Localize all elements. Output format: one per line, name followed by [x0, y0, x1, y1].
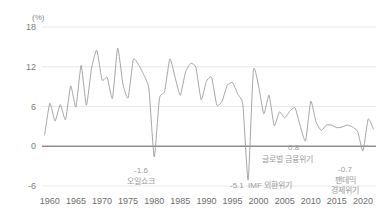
chart-canvas: (%) 181260-6 196019651970197519801985199… [0, 0, 383, 216]
y-tick-label--6: -6 [28, 181, 36, 191]
y-tick-label-18: 18 [26, 22, 36, 32]
x-tick-label-1965: 1965 [66, 196, 86, 206]
x-tick-label-1980: 1980 [144, 196, 164, 206]
annotation-global-financial-crisis-label: 글로벌 금융위기 [262, 154, 313, 164]
y-axis-unit-label: (%) [32, 13, 45, 22]
x-tick-label-2015: 2015 [327, 196, 347, 206]
x-tick-label-1990: 1990 [196, 196, 216, 206]
x-tick-label-2020: 2020 [353, 196, 373, 206]
x-tick-label-1960: 1960 [40, 196, 60, 206]
annotation-oil-shock-label: 오일쇼크 [127, 177, 155, 186]
chart-background [0, 0, 383, 216]
annotation-imf-crisis-label: IMF 외환위기 [248, 180, 292, 190]
x-tick-label-2005: 2005 [275, 196, 295, 206]
annotation-pandemic-crisis-label-line2: 경제위기 [331, 185, 359, 195]
annotation-global-financial-crisis-value: 0.8 [288, 143, 300, 152]
annotation-imf-crisis-value: -5.1 [230, 181, 244, 190]
x-tick-label-1995: 1995 [222, 196, 242, 206]
x-tick-label-2010: 2010 [301, 196, 321, 206]
annotation-pandemic-crisis-label-line1: 팬데믹 [335, 175, 356, 185]
gdp-growth-chart: (%) 181260-6 196019651970197519801985199… [0, 0, 383, 216]
x-tick-label-1975: 1975 [118, 196, 138, 206]
y-tick-label-12: 12 [26, 62, 36, 72]
x-tick-label-1970: 1970 [92, 196, 112, 206]
annotation-oil-shock-value: -1.6 [134, 166, 148, 175]
x-tick-label-1985: 1985 [170, 196, 190, 206]
annotation-pandemic-crisis-value: -0.7 [338, 165, 352, 174]
y-tick-label-0: 0 [31, 141, 36, 151]
x-tick-label-2000: 2000 [249, 196, 269, 206]
y-tick-label-6: 6 [31, 102, 36, 112]
